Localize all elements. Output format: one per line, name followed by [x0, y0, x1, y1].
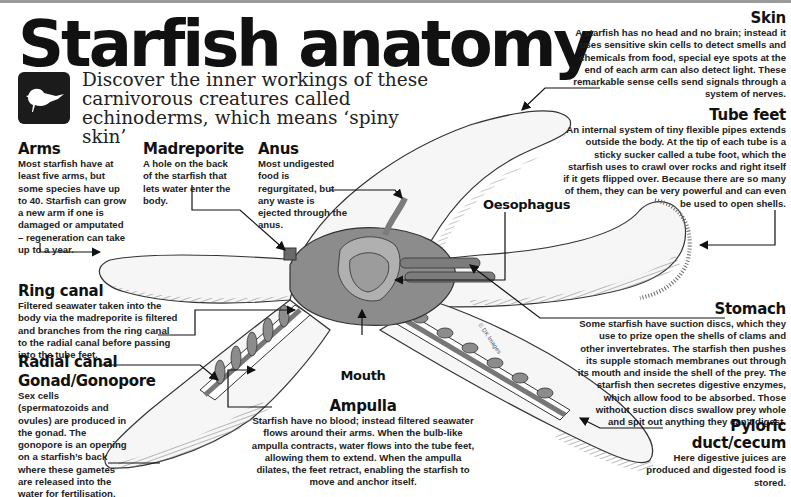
- label-tube-feet: Tube feet An internal system of tiny fle…: [560, 107, 786, 210]
- label-skin-title: Skin: [560, 10, 786, 27]
- label-radial-canal-title: Radial canal: [18, 354, 117, 371]
- label-mouth: Mouth: [336, 367, 390, 384]
- label-arms-title: Arms: [18, 141, 128, 158]
- page-title: Starfish anatomy: [18, 12, 592, 76]
- label-tube-feet-title: Tube feet: [560, 107, 786, 124]
- label-pyloric-text: Here digestive juices are produced and d…: [640, 452, 786, 489]
- arm-right: [410, 200, 690, 307]
- label-skin: Skin A starfish has no head and no brain…: [560, 10, 786, 101]
- label-stomach-title: Stomach: [576, 301, 786, 318]
- label-ring-canal: Ring canal Filtered seawater taken into …: [18, 283, 178, 361]
- label-gonad: Gonad/Gonopore Sex cells (spermatozoids …: [18, 373, 130, 497]
- label-anus-title: Anus: [258, 141, 350, 158]
- label-oesophagus: Oesophagus: [483, 196, 570, 213]
- label-madreporite-text: A hole on the back of the starfish that …: [143, 158, 239, 207]
- label-mouth-title: Mouth: [336, 367, 390, 384]
- label-gonad-title: Gonad/Gonopore: [18, 373, 130, 390]
- label-skin-text: A starfish has no head and no brain; ins…: [560, 27, 786, 101]
- label-anus: Anus Most undigested food is regurgitate…: [258, 141, 350, 232]
- label-stomach: Stomach Some starfish have suction discs…: [576, 301, 786, 429]
- label-radial-canal: Radial canal: [18, 354, 117, 371]
- label-ampulla-title: Ampulla: [250, 398, 476, 415]
- bird-icon: [18, 72, 70, 124]
- label-anus-text: Most undigested food is regurgitated, bu…: [258, 158, 350, 232]
- label-pyloric-title: Pyloric duct/cecum: [640, 418, 786, 452]
- label-ampulla: Ampulla Starfish have no blood; instead …: [250, 398, 476, 489]
- label-tube-feet-text: An internal system of tiny flexible pipe…: [560, 124, 786, 210]
- label-madreporite-title: Madreporite: [143, 141, 239, 158]
- label-oesophagus-title: Oesophagus: [483, 196, 570, 213]
- label-gonad-text: Sex cells (spermatozoids and ovules) are…: [18, 390, 130, 497]
- label-ring-canal-title: Ring canal: [18, 283, 178, 300]
- label-ampulla-text: Starfish have no blood; instead filtered…: [250, 415, 476, 489]
- page-subtitle: Discover the inner workings of these car…: [82, 70, 442, 146]
- label-stomach-text: Some starfish have suction discs, which …: [576, 318, 786, 429]
- label-madreporite: Madreporite A hole on the back of the st…: [143, 141, 239, 207]
- label-arms: Arms Most starfish have at least five ar…: [18, 141, 128, 256]
- label-pyloric: Pyloric duct/cecum Here digestive juices…: [640, 418, 786, 489]
- label-arms-text: Most starfish have at least five arms, b…: [18, 158, 128, 256]
